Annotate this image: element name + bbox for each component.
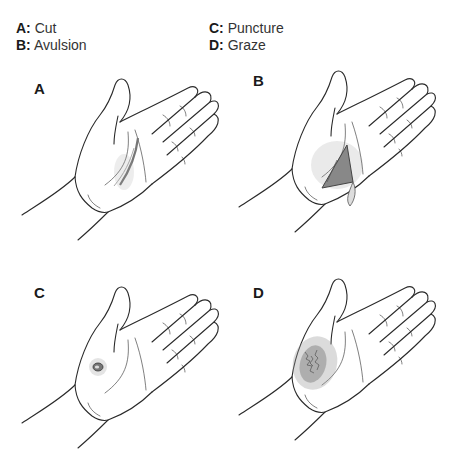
legend-left-column: A: Cut B: Avulsion — [16, 20, 87, 54]
cut-wound-icon — [114, 138, 138, 190]
legend-key: D: — [209, 37, 224, 53]
legend-label: Graze — [228, 37, 266, 53]
hand-illustration — [227, 60, 454, 260]
legend-right-column: C: Puncture D: Graze — [209, 20, 284, 54]
puncture-wound-icon — [89, 358, 107, 376]
legend-key: B: — [16, 37, 31, 53]
hand-illustration — [0, 60, 227, 260]
legend-key: A: — [16, 20, 31, 36]
panel-cut: A — [0, 60, 227, 260]
legend-item-avulsion: B: Avulsion — [16, 37, 87, 54]
legend-key: C: — [209, 20, 224, 36]
legend-label: Cut — [35, 20, 57, 36]
graze-wound-icon — [287, 331, 343, 395]
legend-item-graze: D: Graze — [209, 37, 284, 54]
legend-label: Puncture — [228, 20, 284, 36]
avulsion-wound-icon — [311, 141, 363, 206]
legend-item-cut: A: Cut — [16, 20, 87, 37]
hand-illustration — [227, 260, 454, 474]
panel-graze: D — [227, 260, 454, 460]
panel-avulsion: B — [227, 60, 454, 260]
legend-label: Avulsion — [34, 37, 87, 53]
legend-item-puncture: C: Puncture — [209, 20, 284, 37]
hand-illustration — [0, 260, 227, 474]
panel-puncture: C — [0, 260, 227, 460]
